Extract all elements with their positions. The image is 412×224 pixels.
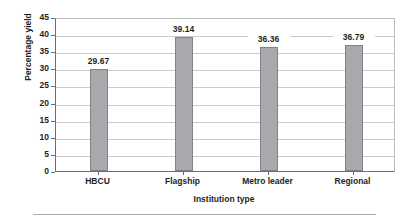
bottom-divider (33, 214, 376, 215)
x-tick-label: Regional (308, 176, 398, 186)
y-tick-label: 45 (9, 13, 49, 22)
x-tick-label: HBCU (53, 176, 143, 186)
x-tick-mark (183, 172, 184, 175)
y-tick-label: 25 (9, 81, 49, 90)
y-tick-label: 15 (9, 116, 49, 125)
bar (90, 69, 108, 171)
x-tick-label: Metro leader (223, 176, 313, 186)
y-tick-label: 5 (9, 150, 49, 159)
y-tick-label: 40 (9, 30, 49, 39)
y-tick-label: 35 (9, 47, 49, 56)
y-tick-label: 0 (9, 167, 49, 176)
y-tick-label: 10 (9, 133, 49, 142)
bar (175, 37, 193, 171)
y-tick-label: 30 (9, 64, 49, 73)
x-axis-title: Institution type (52, 194, 396, 204)
bar-chart-figure: Percentage yield 051015202530354045 29.6… (0, 0, 412, 224)
x-tick-mark (98, 172, 99, 175)
bar (260, 47, 278, 171)
bar-value-label: 36.79 (333, 33, 375, 42)
bar-value-label: 29.67 (78, 57, 120, 66)
x-tick-mark (268, 172, 269, 175)
x-tick-mark (353, 172, 354, 175)
gridline (56, 53, 394, 54)
bar-value-label: 39.14 (163, 25, 205, 34)
x-tick-label: Flagship (138, 176, 228, 186)
bar (345, 45, 363, 171)
y-tick-label: 20 (9, 99, 49, 108)
y-tick-mark (51, 172, 55, 173)
bar-value-label: 36.36 (248, 35, 290, 44)
